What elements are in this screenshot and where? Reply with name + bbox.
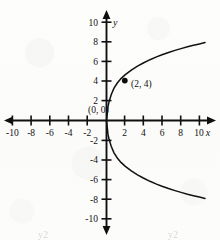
point-2-4-label: (2, 4) — [131, 79, 152, 90]
x-tick-label: -6 — [46, 128, 54, 138]
y-axis-label: y — [112, 17, 118, 28]
x-tick-label: 2 — [122, 128, 127, 138]
cropped-caption-left: y2 — [38, 231, 48, 240]
x-axis: -10 -8 -6 -4 -2 2 4 6 8 10 x — [4, 116, 216, 139]
origin-point-label: (0, 0) — [88, 105, 109, 116]
x-tick-label: -8 — [27, 128, 35, 138]
x-axis-arrow-right-icon — [207, 117, 216, 125]
x-tick-label: 10 — [194, 128, 204, 138]
graph-figure: -10 -8 -6 -4 -2 2 4 6 8 10 x — [0, 0, 220, 240]
y-tick-label: 10 — [89, 18, 99, 28]
x-tick-label: 6 — [160, 128, 165, 138]
y-axis-arrow-up-icon — [103, 10, 111, 19]
y-tick-label: -8 — [90, 195, 98, 205]
y-tick-label: 8 — [93, 37, 98, 47]
cropped-caption-right: y2 — [168, 231, 178, 240]
upper-branch — [107, 43, 206, 121]
coordinate-plane: -10 -8 -6 -4 -2 2 4 6 8 10 x — [0, 0, 220, 240]
y-tick-label: -10 — [85, 214, 98, 224]
y-tick-label: -2 — [90, 136, 98, 146]
x-tick-label: -4 — [65, 128, 73, 138]
y-tick-label: -4 — [90, 155, 98, 165]
x-axis-label: x — [205, 127, 211, 138]
y-axis: 10 8 6 4 2 -2 -4 -6 -8 -10 y — [85, 10, 118, 235]
x-tick-label: 8 — [178, 128, 183, 138]
y-tick-label: 4 — [93, 76, 98, 86]
x-tick-label: 4 — [141, 128, 146, 138]
point-2-4-marker — [122, 78, 128, 84]
x-tick-label: -10 — [6, 128, 19, 138]
y-tick-label: -6 — [90, 175, 98, 185]
x-tick-labels: -10 -8 -6 -4 -2 2 4 6 8 10 — [6, 128, 204, 138]
cropped-caption-row: y2 y2 — [0, 231, 220, 240]
y-tick-label: 6 — [93, 57, 98, 67]
